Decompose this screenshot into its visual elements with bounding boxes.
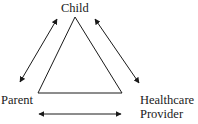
- triad-diagram: Child Parent Healthcare Provider: [0, 0, 198, 124]
- arrow-child-provider: [95, 19, 139, 83]
- arrow-parent-child: [20, 19, 57, 82]
- node-parent-label: Parent: [1, 94, 33, 107]
- node-provider-label-line2: Provider: [140, 108, 183, 121]
- node-child-label: Child: [61, 2, 89, 15]
- node-provider-label-line1: Healthcare: [140, 94, 194, 107]
- central-triangle: [38, 17, 122, 93]
